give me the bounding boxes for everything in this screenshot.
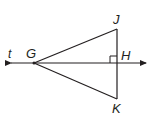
label-t: t	[8, 47, 12, 61]
point-g	[33, 62, 36, 65]
segment-gk	[34, 63, 117, 99]
geometry-diagram: t G J H K	[0, 0, 153, 125]
label-j: J	[112, 12, 120, 27]
segment-gj	[34, 29, 117, 63]
label-k: K	[112, 101, 122, 116]
label-h: H	[121, 48, 131, 63]
label-g: G	[26, 46, 36, 61]
right-angle-marker	[110, 56, 117, 63]
